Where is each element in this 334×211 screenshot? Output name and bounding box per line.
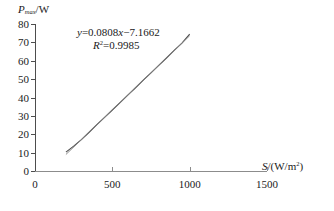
plot-area: 01020304050607080 050010001500 (35, 24, 267, 172)
y-tick-label: 50 (18, 74, 29, 85)
x-tick-label: 500 (104, 179, 121, 190)
chart-figure: Pmax/W S/(W/m2) y=0.0808x−7.1662 R2=0.99… (0, 0, 334, 211)
y-tick-label: 30 (18, 110, 29, 121)
y-axis-subscript: max (25, 8, 36, 15)
y-axis-title: Pmax/W (18, 4, 49, 16)
y-tick-label: 70 (18, 37, 29, 48)
y-axis-symbol: P (18, 3, 25, 15)
x-tick-label: 1500 (256, 179, 278, 190)
y-tick-label: 0 (24, 166, 30, 177)
series-layer (35, 24, 267, 172)
y-tick-label: 80 (18, 19, 29, 30)
x-axis-title: S/(W/m2) (262, 161, 303, 172)
y-tick-label: 10 (18, 147, 29, 158)
x-tick-label: 0 (32, 179, 38, 190)
y-tick-label: 60 (18, 55, 29, 66)
y-axis-unit: /W (36, 3, 49, 15)
x-tick-mark (267, 167, 268, 171)
series-line-linear-fit (66, 36, 190, 155)
y-tick-label: 20 (18, 129, 29, 140)
y-tick-label: 40 (18, 92, 29, 103)
x-axis-unit-close: ) (299, 160, 303, 172)
x-axis-unit-open: /(W/m (268, 160, 297, 172)
x-tick-label: 1000 (179, 179, 201, 190)
series-line-measured (66, 34, 190, 152)
